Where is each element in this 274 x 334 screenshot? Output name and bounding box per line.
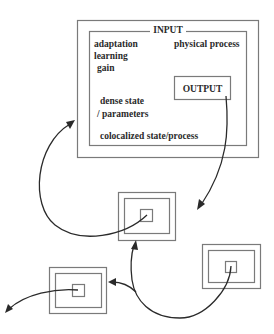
arrowhead-icon xyxy=(5,304,13,313)
input-label: INPUT xyxy=(153,25,183,35)
left-block-inner xyxy=(56,274,102,308)
arrowhead-icon xyxy=(66,120,75,129)
arrow-left-to-outside xyxy=(5,290,78,313)
colocalized-processing-diagram: INPUT adaptation learning gain physical … xyxy=(0,0,274,334)
arrow-output-to-middle xyxy=(197,96,227,210)
middle-block xyxy=(119,193,176,241)
physical-process-label: physical process xyxy=(174,39,240,49)
parameters-label: / parameters xyxy=(96,109,149,119)
dense-state-label: dense state xyxy=(100,96,144,106)
arrow-right-to-middle xyxy=(131,240,231,318)
arrowhead-icon xyxy=(131,240,138,250)
gain-label: gain xyxy=(97,63,115,73)
learning-label: learning xyxy=(94,51,128,61)
output-label: OUTPUT xyxy=(183,84,223,94)
arrowhead-icon xyxy=(108,278,116,286)
main-block: INPUT adaptation learning gain physical … xyxy=(78,21,259,158)
colocalized-label: colocalized state/process xyxy=(100,131,199,141)
middle-block-inner xyxy=(125,199,170,234)
left-block-core xyxy=(73,285,85,297)
adaptation-label: adaptation xyxy=(94,39,139,49)
